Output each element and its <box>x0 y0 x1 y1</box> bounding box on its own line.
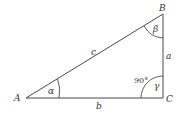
side-label-b: b <box>96 101 102 111</box>
vertex-label-c: C <box>166 94 173 104</box>
vertex-label-b: B <box>158 3 166 13</box>
triangle-diagram: A B C c a b α β γ 90° <box>0 0 182 115</box>
angle-label-gamma: γ <box>154 81 160 91</box>
side-label-c: c <box>91 47 96 57</box>
angle-label-alpha: α <box>48 86 54 96</box>
side-label-a: a <box>166 51 171 61</box>
vertex-label-a: A <box>13 93 21 103</box>
angle-label-beta: β <box>152 24 158 34</box>
angle-alpha-arc <box>58 79 60 98</box>
right-angle-label: 90° <box>134 76 148 85</box>
